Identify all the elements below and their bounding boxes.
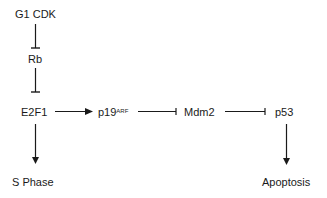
node-mdm2-label: Mdm2 — [184, 106, 215, 118]
pathway-diagram: G1 CDK Rb E2F1 p19ARF Mdm2 p53 S Phase A… — [0, 0, 327, 198]
node-apoptosis-label: Apoptosis — [262, 176, 310, 188]
edge-rb-inhibits-e2f1 — [31, 68, 40, 92]
edge-g1cdk-inhibits-rb — [31, 24, 40, 48]
node-s-phase-label: S Phase — [12, 176, 54, 188]
edge-p19arf-inhibits-mdm2 — [138, 108, 176, 115]
edge-mdm2-inhibits-p53 — [225, 108, 265, 115]
node-g1-cdk-label: G1 CDK — [15, 8, 56, 20]
node-p19arf-superscript: ARF — [116, 108, 128, 114]
edge-e2f1-activates-sphase — [32, 124, 39, 164]
node-mdm2: Mdm2 — [184, 106, 215, 118]
node-s-phase: S Phase — [12, 176, 54, 188]
edge-e2f1-activates-p19arf — [55, 108, 93, 115]
edges-layer — [0, 0, 327, 198]
edge-p53-activates-apoptosis — [283, 124, 290, 165]
node-e2f1: E2F1 — [21, 106, 47, 118]
node-p19arf: p19ARF — [98, 106, 128, 118]
node-p53-label: p53 — [275, 106, 293, 118]
node-g1-cdk: G1 CDK — [15, 8, 56, 20]
node-rb: Rb — [28, 53, 42, 65]
node-p53: p53 — [275, 106, 293, 118]
node-e2f1-label: E2F1 — [21, 106, 47, 118]
node-apoptosis: Apoptosis — [262, 176, 310, 188]
node-p19arf-label: p19 — [98, 106, 116, 118]
node-rb-label: Rb — [28, 53, 42, 65]
